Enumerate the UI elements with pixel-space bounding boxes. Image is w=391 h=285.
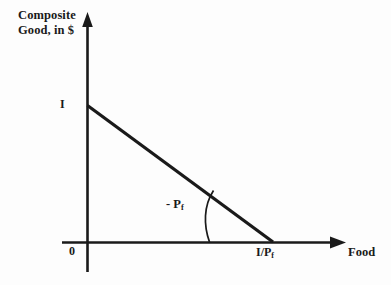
x-intercept-label: I/Pf (256, 245, 274, 259)
y-intercept-label: I (60, 97, 65, 111)
x-axis-title: Food (348, 245, 375, 260)
y-axis-title: Composite Good, in $ (18, 8, 76, 38)
slope-label: - Pf (166, 197, 184, 212)
diagram-canvas (0, 0, 391, 285)
origin-label: 0 (69, 244, 75, 258)
x-axis-arrowhead (330, 237, 346, 249)
y-axis-arrowhead (82, 12, 93, 27)
x-intercept-label-main: I/P (256, 245, 271, 259)
budget-constraint-figure: Composite Good, in $ I 0 - Pf I/Pf Food (0, 0, 391, 285)
y-axis-title-line-2: Good, in $ (18, 23, 76, 38)
y-axis-title-line-1: Composite (18, 8, 76, 23)
budget-constraint-line (88, 106, 274, 243)
slope-label-subscript: f (181, 203, 184, 212)
slope-label-main: - P (166, 197, 181, 211)
x-intercept-label-subscript: f (271, 251, 274, 260)
